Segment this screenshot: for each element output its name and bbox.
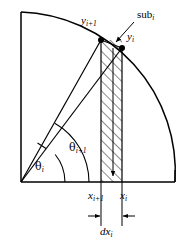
label-y-current-sub: i [132,35,134,44]
label-theta-next-sub: i+1 [76,146,87,155]
label-dx: dxi [100,226,112,237]
label-theta-current-base: θ [35,160,42,173]
point-marker-y-current [119,45,125,51]
figure-container: yi+1 subi yi θi+1 θi xi+1 xi dxi [0,0,195,243]
label-sub-region: subi [137,9,154,20]
geometry-diagram [0,0,195,243]
label-sub-region-base: sub [137,8,152,20]
label-theta-next: θi+1 [69,142,87,153]
label-y-current: yi [127,31,134,42]
label-x-next: xi+1 [88,190,104,201]
label-theta-current-sub: i [42,165,44,174]
label-dx-base: dx [100,225,110,237]
quarter-circle-arc [21,12,175,182]
radius-ray-theta-next [21,40,101,182]
angle-arc-theta-current [55,155,65,183]
label-y-next: yi+1 [81,15,97,26]
perpendicular-tick-mark [38,143,47,149]
label-y-next-sub: i+1 [86,19,97,28]
label-x-current-sub: i [125,194,127,203]
label-x-current: xi [120,190,127,201]
label-x-next-sub: i+1 [93,194,104,203]
point-marker-y-next [98,37,104,43]
label-theta-next-base: θ [69,141,76,154]
label-theta-current: θi [35,161,44,172]
